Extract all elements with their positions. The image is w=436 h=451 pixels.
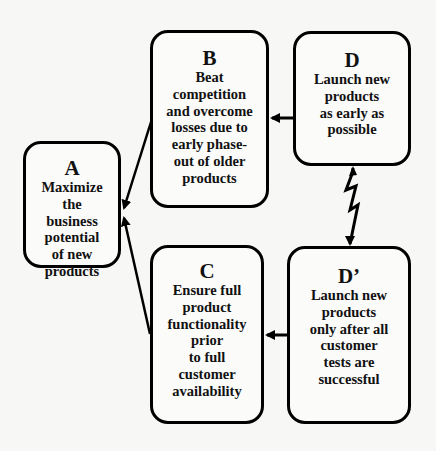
lightning-conflict-icon: [345, 166, 358, 246]
node-c-letter: C: [153, 260, 261, 282]
node-c: C Ensure full product functionality prio…: [150, 245, 264, 424]
node-b: B Beat competition and overcome losses d…: [150, 30, 269, 208]
conflict-diagram: A Maximize the business potential of new…: [0, 0, 436, 451]
node-d-text: Launch new products as early as possible: [296, 71, 408, 138]
node-d-prime: D’ Launch new products only after all cu…: [287, 246, 411, 424]
node-a-text: Maximize the business potential of new p…: [26, 179, 118, 280]
node-b-letter: B: [153, 47, 266, 69]
node-d: D Launch new products as early as possib…: [293, 31, 411, 166]
arrow-b-to-a: [124, 122, 151, 208]
arrow-c-to-a: [124, 218, 150, 334]
node-d-prime-text: Launch new products only after all custo…: [290, 287, 408, 388]
node-d-prime-letter: D’: [290, 265, 408, 287]
node-b-text: Beat competition and overcome losses due…: [153, 69, 266, 187]
node-d-letter: D: [296, 49, 408, 71]
node-a-letter: A: [26, 157, 118, 179]
node-a: A Maximize the business potential of new…: [23, 141, 121, 268]
node-c-text: Ensure full product functionality prior …: [153, 282, 261, 400]
